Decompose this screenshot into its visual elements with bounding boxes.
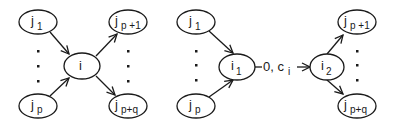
svg-text:j: j xyxy=(188,13,192,28)
node-jp1-right: j p +1 xyxy=(338,10,376,34)
node-jp1: j p +1 xyxy=(109,10,147,34)
svg-text:p: p xyxy=(37,104,43,115)
svg-text:i: i xyxy=(79,58,82,73)
node-split-diagram: j 1 j p i j p +1 j p+q xyxy=(0,0,395,125)
svg-text:1: 1 xyxy=(236,66,242,77)
node-i2: i 2 xyxy=(310,54,344,80)
edge-jp-to-i1 xyxy=(209,80,233,97)
node-jpq-right: j p+q xyxy=(338,94,376,118)
ellipsis-outputs xyxy=(127,50,130,83)
edge-jp-to-i xyxy=(50,78,69,96)
node-i1: i 1 xyxy=(219,54,255,80)
svg-text:j: j xyxy=(343,13,347,28)
ellipsis-inputs xyxy=(37,50,40,83)
ellipsis-outputs-right xyxy=(356,50,359,82)
svg-text:p: p xyxy=(195,104,201,115)
svg-text:i: i xyxy=(288,66,290,77)
edge-i-to-jp1 xyxy=(96,34,117,56)
svg-text:j: j xyxy=(114,97,118,112)
svg-text:1: 1 xyxy=(37,21,43,32)
svg-text:p +1: p +1 xyxy=(121,20,141,31)
node-jp-right: j p xyxy=(177,94,215,118)
node-i: i xyxy=(64,53,100,79)
svg-text:0, c: 0, c xyxy=(263,59,284,74)
node-jp: j p xyxy=(19,94,57,118)
svg-text:1: 1 xyxy=(195,21,201,32)
ellipsis-inputs-right xyxy=(195,50,198,82)
edge-i-to-jpq xyxy=(96,76,115,95)
left-diagram: j 1 j p i j p +1 j p+q xyxy=(19,10,147,118)
edge-j1-to-i xyxy=(50,32,69,54)
svg-text:p +1: p +1 xyxy=(350,20,370,31)
edge-i2-to-jpq xyxy=(327,80,343,94)
svg-text:j: j xyxy=(30,97,34,112)
svg-text:j: j xyxy=(343,97,347,112)
edge-label-cost: 0, c i xyxy=(263,59,290,77)
svg-text:i: i xyxy=(231,58,234,73)
svg-text:j: j xyxy=(114,13,118,28)
node-j1: j 1 xyxy=(19,10,57,34)
edge-i2-to-jp1 xyxy=(327,35,343,54)
node-j1-right: j 1 xyxy=(177,10,215,34)
svg-text:p+q: p+q xyxy=(121,104,138,115)
svg-text:j: j xyxy=(188,97,192,112)
svg-text:2: 2 xyxy=(326,66,332,77)
svg-text:p+q: p+q xyxy=(350,104,367,115)
edge-j1-to-i1 xyxy=(209,31,233,53)
right-diagram: 0, c i j 1 j p i 1 xyxy=(177,10,376,118)
node-jpq: j p+q xyxy=(109,94,147,118)
svg-text:i: i xyxy=(321,58,324,73)
svg-text:j: j xyxy=(30,13,34,28)
